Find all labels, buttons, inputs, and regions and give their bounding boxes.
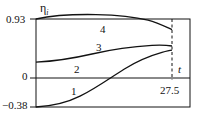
curve-label-2: 2 [74, 64, 80, 75]
x-tick-label-275: 27.5 [160, 85, 179, 96]
y-tick-label-minus-038: −0.38 [2, 100, 27, 111]
curve-label-3: 3 [96, 42, 102, 53]
curve-label-1: 1 [71, 86, 77, 97]
plot-area [0, 0, 200, 120]
x-axis-label: t [178, 64, 181, 75]
y-axis-label: ηi [40, 2, 49, 17]
y-tick-label-0: 0 [22, 71, 28, 82]
y-tick-label-093: 0.93 [6, 14, 25, 25]
y-axis-label-subscript: i [46, 8, 48, 17]
figure-chart-eta-vs-t: ηi t 0.93 0 −0.38 27.5 1 2 3 4 [0, 0, 200, 120]
curve-label-4: 4 [100, 24, 106, 35]
curve-3 [36, 45, 172, 62]
curve-1 [36, 50, 172, 107]
